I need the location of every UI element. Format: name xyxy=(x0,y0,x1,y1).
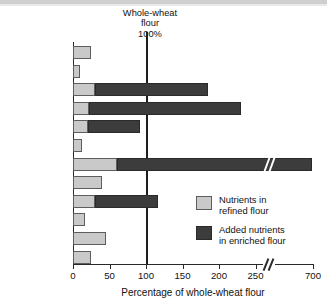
legend: Nutrients in refined flour Added nutrien… xyxy=(196,194,322,254)
legend-label-added-line-1: Added nutrients xyxy=(219,224,285,235)
bar-segment-refined xyxy=(73,195,95,208)
x-tick xyxy=(313,264,314,269)
bar-row: Fiber xyxy=(0,46,327,59)
x-axis-label: Percentage of whole-wheat flour xyxy=(73,287,313,298)
x-tick xyxy=(183,264,184,269)
reference-line-title-line-3: 100% xyxy=(104,29,196,39)
bar-segment-added xyxy=(95,83,208,96)
reference-line-title-line-1: Whole-wheat xyxy=(104,8,196,18)
bar-row: Vitamin E xyxy=(0,65,327,78)
bar-row: Vitamin B6 xyxy=(0,139,327,152)
bar-segment-refined xyxy=(73,158,117,171)
x-tick xyxy=(73,264,74,269)
reference-line-title-line-2: flour xyxy=(104,18,196,28)
bar-row: Riboflavin xyxy=(0,102,327,115)
legend-swatch-added-icon xyxy=(196,226,212,240)
bar-segment-refined xyxy=(73,65,80,78)
legend-label-added: Added nutrients in enriched flour xyxy=(219,224,322,246)
bar-segment-refined xyxy=(73,120,88,133)
legend-label-refined: Nutrients in refined flour xyxy=(219,194,322,216)
bar-segment-added xyxy=(88,120,141,133)
x-tick-label: 0 xyxy=(53,270,93,281)
scan-artifact-top-light xyxy=(0,4,327,6)
bar-segment-added xyxy=(89,102,241,115)
x-tick-label: 50 xyxy=(90,270,130,281)
legend-label-refined-line-2: refined flour xyxy=(219,205,269,216)
legend-label-refined-line-1: Nutrients in xyxy=(219,194,266,205)
x-tick-label: 700 xyxy=(293,270,327,281)
bar-segment-refined xyxy=(73,251,91,264)
x-tick xyxy=(219,264,220,269)
legend-swatch-refined-icon xyxy=(196,196,212,210)
bar-segment-refined xyxy=(73,102,89,115)
x-axis-break-icon xyxy=(262,258,276,272)
bar-segment-refined xyxy=(73,232,106,245)
reference-line-title: Whole-wheat flour 100% xyxy=(104,8,196,39)
bar-segment-added xyxy=(95,195,158,208)
x-tick-label: 150 xyxy=(163,270,203,281)
x-tick xyxy=(110,264,111,269)
legend-item-added: Added nutrients in enriched flour xyxy=(196,224,322,248)
bar-row: Niacin xyxy=(0,120,327,133)
bar-segment-refined xyxy=(73,83,95,96)
bar-segment-refined xyxy=(73,139,82,152)
x-tick xyxy=(256,264,257,269)
bar-row: Thiamin xyxy=(0,83,327,96)
legend-item-refined: Nutrients in refined flour xyxy=(196,194,322,218)
x-tick-label: 200 xyxy=(199,270,239,281)
nutrient-enrichment-bar-chart: Whole-wheat flour 100% FiberVitamin EThi… xyxy=(0,0,327,308)
bar-segment-added xyxy=(117,158,312,171)
legend-label-added-line-2: in enriched flour xyxy=(219,235,286,246)
bar-segment-refined xyxy=(73,213,85,226)
bar-row: Copper xyxy=(0,176,327,189)
x-tick-label: 100 xyxy=(126,270,166,281)
bar-segment-refined xyxy=(73,46,91,59)
x-tick xyxy=(146,264,147,269)
bar-row: Folate xyxy=(0,158,327,171)
bar-segment-refined xyxy=(73,176,102,189)
